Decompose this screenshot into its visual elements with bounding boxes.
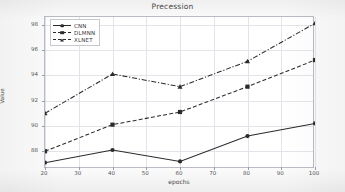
x-tick-label: 60 [176, 170, 183, 176]
legend-item-xlnet: XLNET [53, 36, 95, 43]
data-point-marker [45, 149, 47, 153]
legend-marker [60, 24, 64, 28]
y-tick-label: 94 [31, 71, 38, 77]
data-point-marker [110, 71, 115, 76]
data-point-marker [178, 159, 182, 163]
legend-label: CNN [71, 23, 87, 29]
data-point-marker [45, 111, 48, 116]
x-tick-label: 100 [309, 170, 320, 176]
series-cnn [45, 121, 315, 164]
y-axis-tick-labels: 889092949698 [0, 16, 42, 168]
gridline-vertical [315, 17, 316, 167]
x-tick-label: 50 [142, 170, 149, 176]
data-point-marker [110, 123, 114, 127]
legend-symbol-triangle-icon [53, 36, 71, 43]
x-tick-label: 40 [108, 170, 115, 176]
x-tick-label: 80 [243, 170, 250, 176]
y-tick-label: 92 [31, 97, 38, 103]
legend-label: DLMNN [71, 30, 95, 36]
x-tick-label: 90 [277, 170, 284, 176]
chart-title: Precession [0, 2, 345, 11]
x-tick-label: 70 [209, 170, 216, 176]
legend-item-dlmnn: DLMNN [53, 29, 95, 36]
legend-item-cnn: CNN [53, 22, 95, 29]
data-point-marker [110, 148, 114, 152]
y-tick-label: 90 [31, 122, 38, 128]
x-tick-label: 30 [74, 170, 81, 176]
series-line [45, 60, 315, 151]
series-dlmnn [45, 58, 315, 153]
legend-symbol-circle-icon [53, 22, 71, 29]
data-point-marker [45, 161, 47, 165]
series-line [45, 123, 315, 162]
data-point-marker [178, 110, 182, 114]
data-point-marker [313, 21, 316, 26]
data-point-marker [245, 59, 250, 64]
data-point-marker [313, 121, 315, 125]
x-axis-title: epochs [44, 178, 314, 185]
legend-marker [60, 31, 64, 35]
data-point-marker [245, 134, 249, 138]
data-point-marker [313, 58, 315, 62]
legend: CNNDLMNNXLNET [50, 19, 100, 46]
y-tick-label: 88 [31, 147, 38, 153]
figure-canvas: Precession Value 889092949698 2030405060… [0, 0, 345, 192]
y-tick-label: 96 [31, 46, 38, 52]
y-tick-label: 98 [31, 21, 38, 27]
legend-symbol-square-icon [53, 29, 71, 36]
legend-label: XLNET [71, 37, 93, 43]
legend-marker [60, 38, 64, 41]
data-point-marker [245, 85, 249, 89]
x-tick-label: 20 [41, 170, 48, 176]
